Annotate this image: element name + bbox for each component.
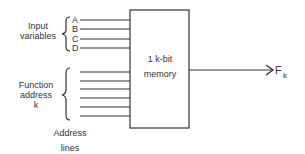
- output-subscript: k: [283, 71, 288, 80]
- input-b: B: [72, 24, 78, 34]
- address-label-line1: Function: [19, 80, 54, 90]
- address-label-line3: k: [34, 100, 39, 110]
- address-lines: [80, 72, 130, 116]
- address-label-line2: address: [20, 90, 53, 100]
- address-brace: [62, 68, 70, 120]
- input-label-line2: variables: [20, 31, 57, 41]
- input-brace: [62, 17, 70, 51]
- input-d: D: [72, 43, 79, 53]
- input-label-line1: Input: [28, 21, 49, 31]
- output-label: F: [275, 64, 282, 76]
- memory-label-line1: 1 k-bit: [148, 54, 173, 64]
- memory-label-line2: memory: [144, 69, 177, 79]
- memory-diagram: Input variables A B C D Function address…: [0, 0, 305, 154]
- address-caption-line2: lines: [61, 143, 80, 153]
- address-caption-line1: Address: [53, 128, 87, 138]
- input-lines: [80, 20, 130, 48]
